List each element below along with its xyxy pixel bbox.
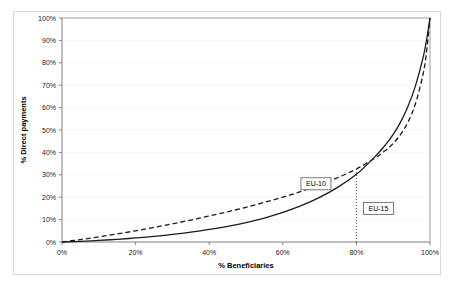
lorenz-curve-chart: 0%10%20%30%40%50%60%70%80%90%100% 0%20%4… xyxy=(0,0,456,288)
y-tick-label: 0% xyxy=(46,239,56,246)
y-tick-label: 30% xyxy=(42,171,56,178)
x-tick-label: 40% xyxy=(202,249,216,256)
y-axis-title: % Direct payments xyxy=(19,96,28,163)
y-tick-label: 50% xyxy=(42,127,56,134)
x-tick-label: 80% xyxy=(349,249,363,256)
x-tick-label: 0% xyxy=(57,249,67,256)
y-tick-label: 20% xyxy=(42,194,56,201)
annotation-label: EU-15 xyxy=(369,205,389,212)
y-tick-label: 70% xyxy=(42,82,56,89)
annotation-label: EU-10 xyxy=(306,180,326,187)
y-tick-label: 80% xyxy=(42,59,56,66)
y-axis: 0%10%20%30%40%50%60%70%80%90%100% xyxy=(38,15,62,246)
y-tick-label: 100% xyxy=(38,15,56,22)
y-tick-label: 90% xyxy=(42,37,56,44)
x-tick-label: 60% xyxy=(276,249,290,256)
y-tick-label: 60% xyxy=(42,104,56,111)
x-tick-label: 20% xyxy=(129,249,143,256)
x-axis: 0%20%40%60%80%100% xyxy=(57,242,439,256)
x-axis-title: % Beneficiaries xyxy=(218,261,273,270)
y-tick-label: 40% xyxy=(42,149,56,156)
x-tick-label: 100% xyxy=(421,249,439,256)
y-tick-label: 10% xyxy=(42,216,56,223)
